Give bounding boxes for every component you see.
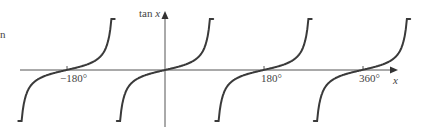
margin-mark: n: [0, 28, 6, 40]
y-axis-label-fn: tan: [139, 7, 155, 19]
y-axis-label-var: x: [154, 7, 160, 19]
y-axis-label: tan x: [139, 7, 160, 19]
x-axis-arrow-icon: [390, 67, 398, 74]
tick-label-180: 180°: [261, 72, 282, 84]
x-axis-label: x: [392, 74, 398, 86]
tick-label-360: 360°: [359, 72, 380, 84]
tan-graph: n x tan x −180° 180° 360°: [0, 0, 421, 131]
y-axis-arrow-icon: [162, 11, 169, 19]
tick-label-neg180: −180°: [60, 72, 87, 84]
